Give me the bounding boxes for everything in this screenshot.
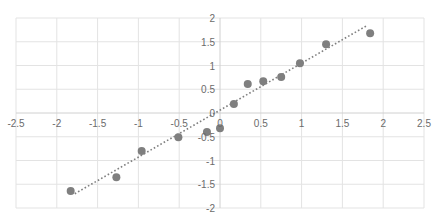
y-tick-label: -1 <box>206 156 215 167</box>
y-tick-label: -2 <box>206 203 215 214</box>
x-tick-label: -1 <box>134 118 143 129</box>
x-tick-label: 0 <box>217 118 223 129</box>
y-tick-label: 0.5 <box>201 84 215 95</box>
x-tick-label: -0.5 <box>171 118 189 129</box>
data-point <box>296 59 304 67</box>
data-point <box>112 173 120 181</box>
x-tick-label: 2 <box>380 118 386 129</box>
x-tick-label: 1.5 <box>335 118 349 129</box>
y-tick-label: -1.5 <box>198 179 216 190</box>
x-tick-label: 0.5 <box>254 118 268 129</box>
y-tick-label: 1 <box>209 61 215 72</box>
data-point <box>67 187 75 195</box>
y-tick-label: 2 <box>209 13 215 24</box>
data-point <box>259 77 267 85</box>
x-tick-label: -2 <box>52 118 61 129</box>
data-point <box>322 40 330 48</box>
x-tick-label: -1.5 <box>89 118 107 129</box>
data-point <box>277 73 285 81</box>
y-tick-label: -0.5 <box>198 132 216 143</box>
data-point <box>138 147 146 155</box>
data-point <box>244 80 252 88</box>
data-point <box>230 100 238 108</box>
data-point <box>174 133 182 141</box>
x-tick-label: 2.5 <box>417 118 431 129</box>
scatter-chart: -2.5-2-1.5-1-0.500.511.522.5 -2-1.5-1-0.… <box>0 0 439 220</box>
y-tick-label: 1.5 <box>201 37 215 48</box>
x-tick-label: 1 <box>299 118 305 129</box>
data-point <box>366 29 374 37</box>
axes <box>16 18 424 208</box>
x-axis-tick-labels: -2.5-2-1.5-1-0.500.511.522.5 <box>7 118 431 129</box>
x-tick-label: -2.5 <box>7 118 25 129</box>
y-tick-label: 0 <box>209 108 215 119</box>
